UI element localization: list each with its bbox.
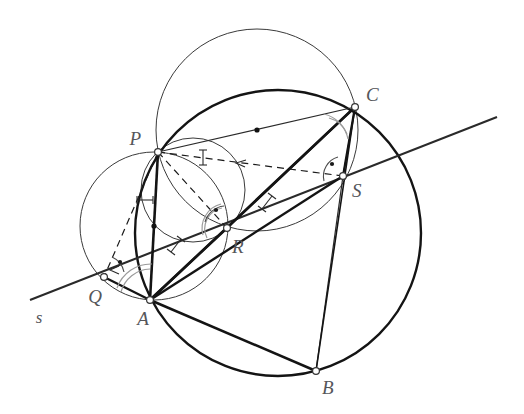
point-label-P: P xyxy=(128,128,141,149)
vertex-marker-A[interactable] xyxy=(147,297,154,304)
point-label-A: A xyxy=(135,308,149,329)
geometry-canvas: P Q R S A B C s xyxy=(0,0,524,414)
right-angle-arc-at-S xyxy=(323,157,338,181)
perp-PR xyxy=(158,152,227,228)
circumcircle-ABC xyxy=(135,90,421,376)
right-angle-dot-at-R xyxy=(214,208,218,212)
vertex-marker-B[interactable] xyxy=(313,368,320,375)
angle-arc-at-C-inner xyxy=(329,118,347,134)
vertex-marker-R[interactable] xyxy=(224,225,231,232)
point-label-B: B xyxy=(322,377,334,398)
point-label-Q: Q xyxy=(88,286,102,307)
perp-PS xyxy=(158,152,343,176)
geometry-figure: P Q R S A B C s xyxy=(0,0,524,414)
vertex-marker-Q[interactable] xyxy=(101,274,108,281)
right-angle-dot-at-Q xyxy=(118,260,122,264)
arrow-marks xyxy=(110,160,246,274)
line-label-s: s xyxy=(36,308,43,327)
vertex-marker-P[interactable] xyxy=(155,149,162,156)
point-label-R: R xyxy=(231,236,244,257)
point-label-C: C xyxy=(366,84,379,105)
center-dot-circle-PC xyxy=(254,127,259,132)
side-AB xyxy=(150,300,316,371)
center-dot-circle-PA xyxy=(151,223,156,228)
point-label-S: S xyxy=(352,180,362,201)
vertex-marker-S[interactable] xyxy=(340,173,347,180)
simson-line-s xyxy=(30,117,497,300)
right-angle-dot-at-S xyxy=(330,162,334,166)
vertex-marker-C[interactable] xyxy=(352,104,359,111)
